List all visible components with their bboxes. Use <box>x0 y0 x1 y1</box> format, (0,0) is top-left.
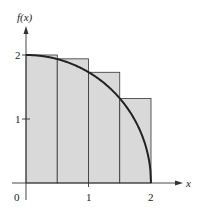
y-tick-1-label: 1 <box>15 114 21 125</box>
y-tick-2-label: 2 <box>15 50 21 61</box>
riemann-rectangle-3 <box>89 72 120 183</box>
y-axis-label: f(x) <box>17 12 32 23</box>
x-tick-2-label: 2 <box>148 192 154 203</box>
chart-plot <box>0 0 197 221</box>
x-axis-arrow-icon <box>175 181 183 186</box>
x-tick-1-label: 1 <box>86 192 92 203</box>
riemann-rectangle-4 <box>120 99 151 183</box>
x-axis-label: x <box>186 178 191 189</box>
origin-label: 0 <box>14 192 20 203</box>
riemann-rectangle-2 <box>57 59 88 183</box>
riemann-rectangle-1 <box>26 55 57 183</box>
y-axis-arrow-icon <box>24 26 29 34</box>
